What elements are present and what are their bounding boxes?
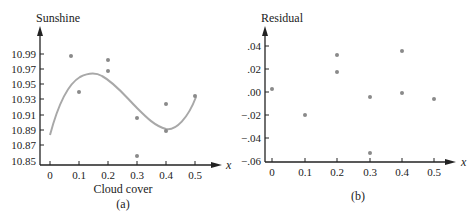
- y-tick-label: .00: [247, 86, 261, 98]
- x-tick-label: 0.1: [298, 166, 312, 178]
- data-point: [164, 129, 168, 133]
- panel-a-fitted-curve: [50, 73, 196, 135]
- panel-b-x-tick-labels: 0 0.1 0.2 0.3 0.4 0.5: [269, 166, 441, 178]
- panel-a-chart: 10.99 10.97 10.95 10.93 10.91 10.89 10.8…: [11, 11, 232, 211]
- y-tick-label: 10.89: [11, 124, 36, 136]
- data-point: [303, 113, 307, 117]
- data-point: [270, 87, 274, 91]
- panel-b-y-axis-arrow-icon: [262, 26, 268, 36]
- data-point: [335, 53, 339, 57]
- data-point: [135, 116, 139, 120]
- y-tick-label: 10.91: [11, 109, 36, 121]
- y-tick-label: 10.85: [11, 155, 36, 167]
- x-tick-label: 0.3: [363, 166, 377, 178]
- y-tick-label: 10.93: [11, 93, 36, 105]
- data-point: [400, 91, 404, 95]
- data-point: [77, 90, 81, 94]
- panel-b-y-axis-title: Residual: [261, 11, 304, 25]
- y-tick-label: 10.95: [11, 78, 36, 90]
- data-point: [135, 154, 139, 158]
- x-tick-label: 0.5: [188, 169, 202, 181]
- x-tick-label: 0.5: [427, 166, 441, 178]
- data-point: [193, 94, 197, 98]
- x-tick-label: 0.4: [395, 166, 409, 178]
- panel-a-y-axis-title: Sunshine: [36, 11, 80, 25]
- panel-a-data-points: [69, 54, 197, 158]
- panel-b-caption: (b): [351, 189, 365, 203]
- data-point: [164, 102, 168, 106]
- panel-a-x-axis-arrow-icon: [211, 162, 222, 168]
- data-point: [335, 70, 339, 74]
- y-tick-label: 10.99: [11, 48, 36, 60]
- y-tick-label: .02: [247, 63, 261, 75]
- data-point: [400, 49, 404, 53]
- panel-a-x-axis-title: Cloud cover: [94, 182, 153, 196]
- x-tick-label: 0.2: [330, 166, 344, 178]
- y-tick-label: 10.97: [11, 63, 36, 75]
- data-point: [432, 97, 436, 101]
- panel-a-y-axis-arrow-icon: [37, 26, 43, 36]
- panel-a-x-variable: x: [225, 158, 232, 172]
- panel-a-caption: (a): [116, 197, 129, 211]
- x-tick-label: 0: [269, 166, 275, 178]
- data-point: [368, 151, 372, 155]
- y-tick-label: −.06: [241, 155, 261, 167]
- data-point: [106, 58, 110, 62]
- panel-b-x-variable: x: [460, 155, 467, 169]
- panel-b-chart: .04 .02 .00 −.02 −.04 −.06 0 0.1 0.2 0.3…: [241, 11, 467, 203]
- x-tick-label: 0.1: [72, 169, 86, 181]
- data-point: [368, 95, 372, 99]
- panel-a-y-tick-labels: 10.99 10.97 10.95 10.93 10.91 10.89 10.8…: [11, 48, 36, 167]
- x-tick-label: 0.3: [130, 169, 144, 181]
- x-tick-label: 0.2: [101, 169, 115, 181]
- y-tick-label: .04: [247, 40, 261, 52]
- data-point: [69, 54, 73, 58]
- panel-b-x-axis-arrow-icon: [445, 159, 456, 165]
- x-tick-label: 0.4: [159, 169, 173, 181]
- y-tick-label: 10.87: [11, 139, 36, 151]
- data-point: [106, 69, 110, 73]
- panel-b-y-tick-labels: .04 .02 .00 −.02 −.04 −.06: [241, 40, 261, 167]
- y-tick-label: −.04: [241, 132, 261, 144]
- x-tick-label: 0: [47, 169, 53, 181]
- panel-b-data-points: [270, 49, 436, 155]
- figure: 10.99 10.97 10.95 10.93 10.91 10.89 10.8…: [0, 0, 471, 215]
- y-tick-label: −.02: [241, 109, 261, 121]
- panel-a-x-tick-labels: 0 0.1 0.2 0.3 0.4 0.5: [47, 169, 202, 181]
